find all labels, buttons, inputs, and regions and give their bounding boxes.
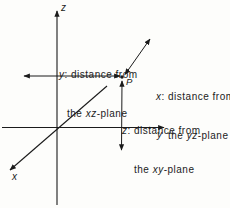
- z-line2-pre: the: [134, 164, 153, 175]
- z-distance-text: : distance from: [128, 125, 201, 136]
- y-line2-pre: the: [67, 108, 86, 119]
- margin-note: 3 cu: [219, 177, 230, 208]
- xy-plane-var: xy: [153, 164, 164, 175]
- z-line2-post: -plane: [164, 164, 195, 175]
- y-distance-text: : distance from: [65, 69, 138, 80]
- z-distance-line1: z: distance from: [122, 124, 201, 137]
- x-axis-label: x: [12, 172, 17, 182]
- y-distance-line1: y: distance from: [59, 68, 138, 81]
- z-distance-annotation: z: distance from the xy-plane: [122, 98, 201, 202]
- xz-plane-var: xz: [86, 108, 97, 119]
- z-distance-line2: the xy-plane: [122, 163, 201, 176]
- z-axis-label: z: [61, 3, 66, 13]
- coordinate-system-figure: z y x P y: distance from the xz-plane x:…: [0, 0, 230, 208]
- x-line2-post: -plane: [198, 130, 229, 141]
